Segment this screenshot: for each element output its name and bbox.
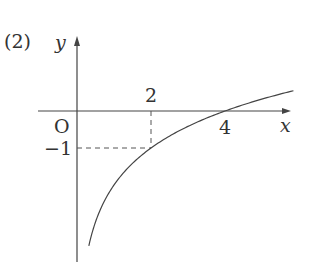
problem-label: (2) <box>4 30 31 52</box>
x-tick-label-2: 2 <box>145 84 157 106</box>
y-axis-arrow-icon <box>74 36 80 46</box>
y-tick-label-neg1: −1 <box>44 137 72 159</box>
graph: (2) x y O 2 4 −1 <box>0 0 312 275</box>
origin-label: O <box>54 115 70 137</box>
x-tick-label-4: 4 <box>219 116 231 138</box>
x-axis-label: x <box>280 114 291 136</box>
log-curve <box>89 91 294 246</box>
y-axis-label: y <box>54 31 66 53</box>
